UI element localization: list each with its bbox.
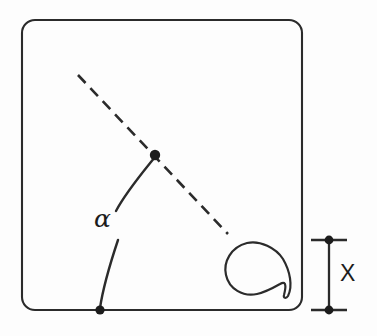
diagram-svg xyxy=(0,0,377,336)
scale-label-x: X xyxy=(340,262,355,285)
teardrop-region xyxy=(225,242,290,297)
scale-bottom-dot xyxy=(325,306,334,315)
rounded-rectangle-boundary xyxy=(22,20,302,310)
origin-dot xyxy=(95,305,104,314)
scale-top-dot xyxy=(325,236,334,245)
angle-arc-lower-segment xyxy=(100,240,118,308)
figure-canvas: α X xyxy=(0,0,377,336)
vertex-dot xyxy=(150,150,160,160)
angle-arc-upper-segment xyxy=(116,157,155,211)
angle-label-alpha: α xyxy=(94,206,111,231)
